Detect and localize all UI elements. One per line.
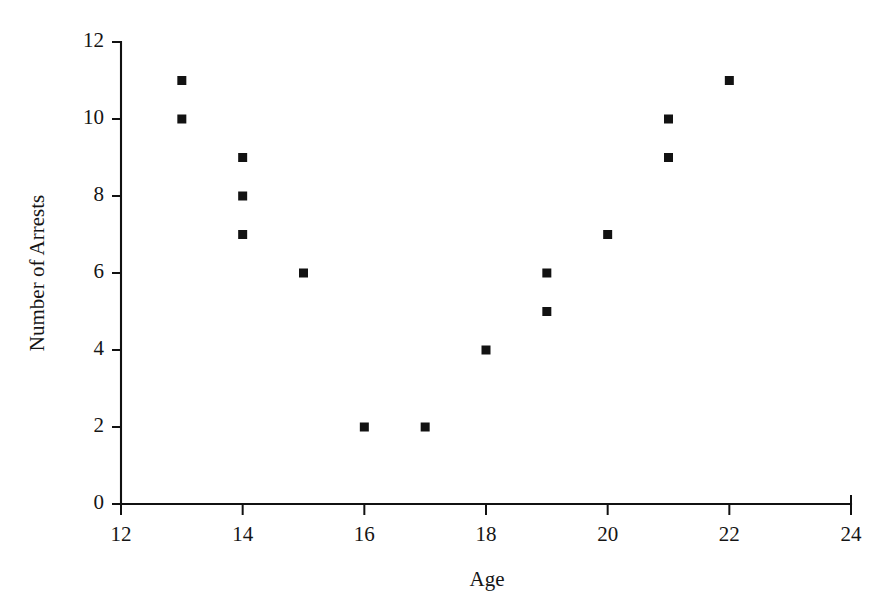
data-point	[421, 423, 430, 432]
data-point	[238, 230, 247, 239]
x-axis-tick-label: 16	[354, 522, 375, 546]
x-axis-tick-label: 12	[111, 522, 132, 546]
x-axis-title: Age	[470, 567, 505, 591]
y-axis-tick-label: 10	[83, 105, 104, 129]
y-axis-tick-label: 12	[83, 28, 104, 52]
y-axis-tick-labels: 024681012	[83, 28, 105, 514]
plot-canvas: 024681012 12141618202224 Age Number of A…	[0, 0, 893, 610]
axis-group	[121, 42, 851, 504]
y-axis-ticks	[112, 42, 121, 504]
x-axis-tick-label: 24	[841, 522, 863, 546]
data-point	[664, 153, 673, 162]
data-point	[725, 76, 734, 85]
data-point	[238, 192, 247, 201]
y-axis-tick-label: 2	[94, 413, 105, 437]
data-point	[177, 115, 186, 124]
x-axis-tick-label: 14	[232, 522, 254, 546]
data-point	[482, 346, 491, 355]
y-axis-tick-label: 0	[94, 490, 105, 514]
data-point-series	[177, 76, 734, 432]
data-point	[603, 230, 612, 239]
data-point	[542, 307, 551, 316]
y-axis-title: Number of Arrests	[25, 195, 49, 351]
scatter-plot-figure: 024681012 12141618202224 Age Number of A…	[0, 0, 893, 610]
x-axis-tick-labels: 12141618202224	[111, 522, 863, 546]
y-axis-tick-label: 8	[94, 182, 105, 206]
data-point	[542, 269, 551, 278]
y-axis-tick-label: 6	[94, 259, 105, 283]
data-point	[664, 115, 673, 124]
data-point	[360, 423, 369, 432]
x-axis-tick-label: 20	[597, 522, 618, 546]
data-point	[299, 269, 308, 278]
x-axis-tick-label: 22	[719, 522, 740, 546]
data-point	[177, 76, 186, 85]
y-axis-tick-label: 4	[94, 336, 105, 360]
data-point	[238, 153, 247, 162]
x-axis-tick-label: 18	[476, 522, 497, 546]
